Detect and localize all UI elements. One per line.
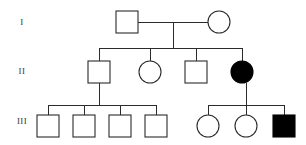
pedigree-chart: IIIIII bbox=[0, 0, 306, 145]
individual-III-3-male-unaffected[interactable] bbox=[109, 115, 131, 137]
individual-III-4-male-unaffected[interactable] bbox=[145, 115, 167, 137]
individual-II-2-female-unaffected[interactable] bbox=[139, 61, 161, 83]
individual-III-1-male-unaffected[interactable] bbox=[37, 115, 59, 137]
individual-III-2-male-unaffected[interactable] bbox=[73, 115, 95, 137]
gen-label-II: II bbox=[19, 66, 26, 76]
generation-labels-group: IIIIII bbox=[17, 17, 27, 126]
individual-II-3-male-unaffected[interactable] bbox=[185, 61, 207, 83]
gen-label-III: III bbox=[17, 116, 27, 126]
individual-symbols-group bbox=[37, 11, 295, 137]
individual-II-1-male-unaffected[interactable] bbox=[88, 61, 110, 83]
pedigree-canvas: IIIIII bbox=[0, 0, 306, 145]
individual-II-4-female-affected[interactable] bbox=[231, 61, 253, 83]
gen-label-I: I bbox=[20, 17, 23, 27]
individual-III-6-female-unaffected[interactable] bbox=[235, 115, 257, 137]
individual-I-2-female-unaffected[interactable] bbox=[208, 11, 230, 33]
individual-III-5-female-unaffected[interactable] bbox=[197, 115, 219, 137]
individual-I-1-male-unaffected[interactable] bbox=[116, 11, 138, 33]
individual-III-7-male-affected[interactable] bbox=[273, 115, 295, 137]
